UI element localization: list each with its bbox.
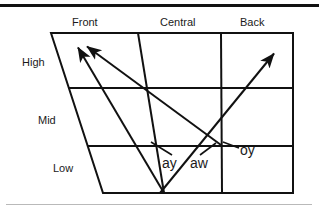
diphthong-label-oy: oy bbox=[240, 145, 255, 156]
column-label-back: Back bbox=[240, 17, 264, 28]
aw-label-leader-line bbox=[200, 143, 216, 155]
vowel-chart-figure: Front Central Back High Mid Low ay aw oy bbox=[0, 0, 319, 217]
oy-diphthong-arrow bbox=[160, 54, 274, 194]
central-back-divider-line bbox=[221, 33, 222, 193]
diphthong-label-ay: ay bbox=[162, 158, 177, 169]
ay-label-leader-line bbox=[151, 142, 172, 155]
row-label-low: Low bbox=[53, 163, 73, 174]
ay-diphthong-arrow bbox=[78, 48, 164, 194]
column-label-front: Front bbox=[72, 17, 98, 28]
front-central-divider-line bbox=[138, 33, 164, 193]
column-label-central: Central bbox=[160, 17, 195, 28]
row-label-high: High bbox=[22, 57, 45, 68]
vowel-quadrilateral-diagram bbox=[0, 0, 319, 217]
diphthong-label-aw: aw bbox=[190, 158, 208, 169]
row-label-mid: Mid bbox=[38, 115, 56, 126]
